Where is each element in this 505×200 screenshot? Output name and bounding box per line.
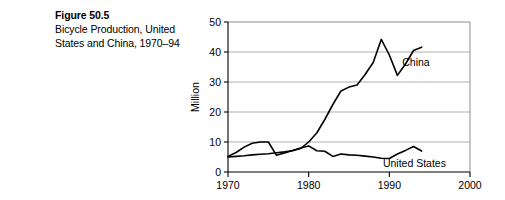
x-tick-label-1980: 1980 [297,179,321,191]
y-tick-label-0: 0 [215,166,221,178]
series-label-united-states: United States [383,157,446,169]
y-tick-label-20: 20 [209,106,221,118]
series-annotations-group: ChinaUnited States [383,56,446,169]
y-tick-label-40: 40 [209,46,221,58]
data-series-group [228,39,422,158]
plot-frame [228,22,470,172]
chart-svg: 01020304050 1970198019902000 ChinaUnited… [185,0,505,200]
x-tick-label-2000: 2000 [458,179,482,191]
x-tick-label-1990: 1990 [378,179,402,191]
y-tick-label-10: 10 [209,136,221,148]
series-line-china [228,39,422,157]
y-axis-title: Million [189,82,201,112]
series-label-china: China [402,56,430,68]
figure-container: Figure 50.5 Bicycle Production, United S… [0,0,505,200]
y-tick-label-30: 30 [209,76,221,88]
y-tick-label-50: 50 [209,16,221,28]
line-chart: 01020304050 1970198019902000 ChinaUnited… [185,0,505,200]
x-axis-ticks-group: 1970198019902000 [216,172,482,191]
y-axis-ticks-group: 01020304050 [209,16,228,178]
x-tick-label-1970: 1970 [216,179,240,191]
gridlines-group [228,52,470,142]
